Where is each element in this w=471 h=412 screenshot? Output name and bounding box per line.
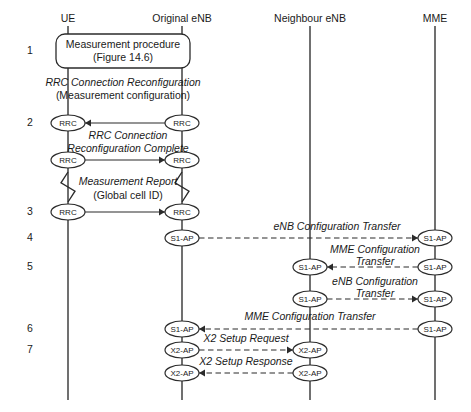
msg-rrc-reconfig-protocol-oenb: RRC	[173, 119, 191, 128]
rrc-reconfig-done-line2: Reconfiguration Complete	[67, 142, 189, 154]
msg-rrc-reconfig-done-protocol-ue: RRC	[59, 156, 77, 165]
msg-meas-report-protocol-ue: RRC	[59, 208, 77, 217]
node-headers: UEOriginal eNBNeighbour eNBMME	[61, 12, 448, 24]
meas-report: Measurement Report(Global cell ID)	[79, 175, 179, 201]
msg-x2-response-protocol-nenb: X2-AP	[298, 369, 321, 378]
step-number-4: 4	[27, 231, 33, 243]
rrc-reconfig-done: RRC ConnectionReconfiguration Complete	[67, 129, 189, 154]
msg-enb-cfg-2-arrowhead	[412, 296, 418, 303]
rrc-reconfig-line1: RRC Connection Reconfiguration	[45, 76, 200, 88]
step-number-2: 2	[27, 116, 33, 128]
msg-x2-request-protocol-nenb: X2-AP	[298, 346, 321, 355]
msg-meas-report-protocol-oenb: RRC	[173, 208, 191, 217]
enb-cfg-xfer-2: eNB ConfigurationTransfer	[332, 275, 418, 299]
node-label-nenb: Neighbour eNB	[274, 12, 346, 24]
enb-cfg-xfer-1-line1: eNB Configuration Transfer	[273, 220, 401, 232]
procedure-box: Measurement procedure(Figure 14.6)	[56, 34, 190, 68]
msg-mme-cfg-1-protocol-mme: S1-AP	[423, 263, 446, 272]
procedure-box-line1: Measurement procedure	[66, 38, 181, 50]
mme-cfg-xfer-2: MME Configuration Transfer	[244, 310, 376, 322]
msg-mme-cfg-2-protocol-mme: S1-AP	[423, 325, 446, 334]
step-numbers: 1234567	[27, 44, 33, 355]
msg-enb-cfg-1-arrowhead	[412, 235, 418, 242]
step-number-1: 1	[27, 44, 33, 56]
step-number-3: 3	[27, 205, 33, 217]
enb-cfg-xfer-2-line1: eNB Configuration	[332, 275, 418, 287]
msg-rrc-reconfig-protocol-ue: RRC	[59, 119, 77, 128]
node-label-oenb: Original eNB	[152, 12, 212, 24]
mme-cfg-xfer-1-line1: MME Configuration	[330, 243, 420, 255]
msg-enb-cfg-2-protocol-mme: S1-AP	[423, 295, 446, 304]
x2-setup-request: X2 Setup Request	[202, 332, 289, 344]
enb-cfg-xfer-1: eNB Configuration Transfer	[273, 220, 401, 232]
msg-x2-response-arrowhead	[199, 370, 205, 377]
x2-setup-request-line1: X2 Setup Request	[202, 332, 289, 344]
mme-cfg-xfer-1: MME ConfigurationTransfer	[330, 243, 420, 267]
step-number-7: 7	[27, 343, 33, 355]
msg-enb-cfg-1-protocol-oenb: S1-AP	[170, 234, 193, 243]
mme-cfg-xfer-2-line1: MME Configuration Transfer	[244, 310, 376, 322]
meas-report-line1: Measurement Report	[79, 175, 179, 187]
msg-rrc-reconfig-done: RRCRRC	[51, 152, 199, 168]
msg-x2-response: X2-APX2-AP	[165, 365, 327, 381]
rrc-reconfig: RRC Connection Reconfiguration(Measureme…	[45, 76, 200, 101]
msg-meas-report-arrowhead	[159, 209, 165, 216]
msg-meas-report: RRCRRC	[51, 204, 199, 220]
sequence-diagram: UEOriginal eNBNeighbour eNBMME Measureme…	[0, 0, 471, 412]
rrc-reconfig-line2: (Measurement configuration)	[56, 89, 190, 101]
x2-setup-response-line1: X2 Setup Response	[198, 355, 293, 367]
enb-cfg-xfer-2-line2: Transfer	[356, 287, 395, 299]
mme-cfg-xfer-1-line2: Transfer	[356, 255, 395, 267]
msg-rrc-reconfig-done-arrowhead	[159, 157, 165, 164]
procedure-box-line2: (Figure 14.6)	[93, 51, 153, 63]
msg-mme-cfg-1-protocol-nenb: S1-AP	[298, 263, 321, 272]
msg-enb-cfg-2-protocol-nenb: S1-AP	[298, 295, 321, 304]
msg-rrc-reconfig-arrowhead	[85, 120, 91, 127]
node-label-mme: MME	[423, 12, 448, 24]
x2-setup-response: X2 Setup Response	[198, 355, 293, 367]
step-number-6: 6	[27, 322, 33, 334]
step-number-5: 5	[27, 260, 33, 272]
meas-report-line2: (Global cell ID)	[93, 189, 162, 201]
msg-mme-cfg-2-protocol-oenb: S1-AP	[170, 325, 193, 334]
msg-x2-request-arrowhead	[287, 347, 293, 354]
annotations-group: RRC Connection Reconfiguration(Measureme…	[45, 76, 420, 367]
node-label-ue: UE	[61, 12, 76, 24]
rrc-reconfig-done-line1: RRC Connection	[89, 129, 168, 141]
msg-mme-cfg-1-arrowhead	[327, 264, 333, 271]
msg-rrc-reconfig-done-protocol-oenb: RRC	[173, 156, 191, 165]
msg-x2-request-protocol-oenb: X2-AP	[170, 346, 193, 355]
msg-enb-cfg-1-protocol-mme: S1-AP	[423, 234, 446, 243]
msg-x2-response-protocol-oenb: X2-AP	[170, 369, 193, 378]
